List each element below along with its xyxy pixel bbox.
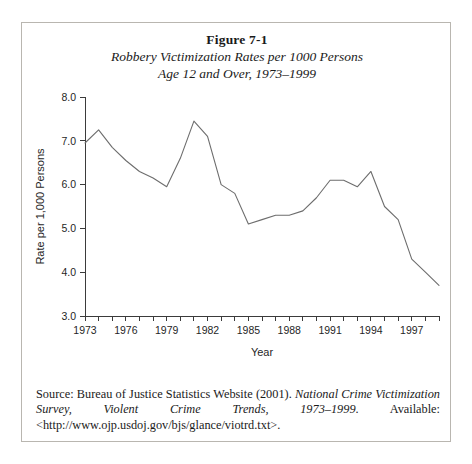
figure-subtitle-line-2: Age 12 and Over, 1973–1999 <box>22 65 452 82</box>
x-tick-label: 1976 <box>114 324 138 336</box>
y-tick-label: 6.0 <box>61 178 76 190</box>
x-tick-label: 1997 <box>400 324 424 336</box>
y-tick-label: 5.0 <box>61 222 76 234</box>
x-tick-label: 1973 <box>73 324 97 336</box>
figure-number: Figure 7-1 <box>22 31 452 48</box>
y-axis-ticks: 3.04.05.06.07.08.0 <box>61 91 85 322</box>
x-tick-label: 1982 <box>196 324 220 336</box>
figure-subtitle-line-1: Robbery Victimization Rates per 1000 Per… <box>22 48 452 65</box>
chart-container: 3.04.05.06.07.08.0 197319761979198219851… <box>22 91 452 381</box>
y-tick-label: 4.0 <box>61 266 76 278</box>
x-tick-label: 1991 <box>318 324 342 336</box>
source-note: Source: Bureau of Justice Statistics Web… <box>36 387 440 433</box>
line-chart: 3.04.05.06.07.08.0 197319761979198219851… <box>22 91 452 381</box>
x-tick-label: 1988 <box>278 324 302 336</box>
y-axis-title: Rate per 1,000 Persons <box>34 148 46 265</box>
y-tick-label: 3.0 <box>61 310 76 322</box>
x-tick-label: 1994 <box>359 324 383 336</box>
figure-panel: Figure 7-1 Robbery Victimization Rates p… <box>21 22 451 442</box>
source-prefix: Source: Bureau of Justice Statistics Web… <box>36 387 295 401</box>
x-axis-ticks: 197319761979198219851988199119941997 <box>73 316 439 336</box>
x-tick-label: 1985 <box>237 324 261 336</box>
y-tick-label: 7.0 <box>61 135 76 147</box>
x-axis-title: Year <box>251 346 274 358</box>
figure-caption: Figure 7-1 Robbery Victimization Rates p… <box>22 31 452 82</box>
data-series-line <box>85 121 439 285</box>
x-tick-label: 1979 <box>155 324 179 336</box>
y-tick-label: 8.0 <box>61 91 76 103</box>
